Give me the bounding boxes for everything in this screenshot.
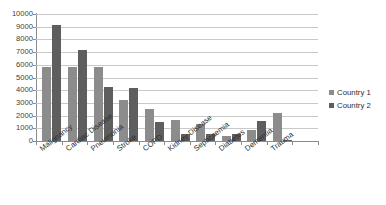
legend-label: Country 1 [337, 88, 371, 97]
x-tick-mark [36, 142, 37, 145]
x-tick-mark [164, 142, 165, 145]
legend-swatch-icon [329, 103, 334, 108]
y-tick-label: 4000 [1, 86, 33, 94]
legend-label: Country 2 [337, 101, 371, 110]
x-tick-mark [215, 142, 216, 145]
bar-chart: 1000090008000700060005000400030002000100… [0, 0, 386, 205]
x-axis-category-labels: MalignancyCardiac DiseasePneumoniaStroke… [0, 146, 386, 205]
plot-area [36, 14, 318, 141]
x-tick-mark [267, 142, 268, 145]
y-axis-tick-labels: 1000090008000700060005000400030002000100… [0, 14, 33, 141]
y-tick-label: 7000 [1, 48, 33, 56]
bar-group [171, 14, 190, 141]
y-tick-label: 5000 [1, 74, 33, 82]
bar-group [119, 14, 138, 141]
x-tick-mark [139, 142, 140, 145]
chart-legend: Country 1Country 2 [329, 86, 386, 112]
bar[interactable] [42, 67, 51, 141]
y-tick-label: 2000 [1, 112, 33, 120]
y-tick-label: 0 [1, 137, 33, 145]
bar-group [273, 14, 292, 141]
legend-item[interactable]: Country 2 [329, 99, 386, 112]
y-tick-label: 9000 [1, 23, 33, 31]
y-tick-label: 1000 [1, 124, 33, 132]
bar-group [68, 14, 87, 141]
x-tick-mark [292, 142, 293, 145]
bar-group [145, 14, 164, 141]
bar[interactable] [52, 25, 61, 141]
x-tick-mark [318, 142, 319, 145]
x-tick-mark [190, 142, 191, 145]
y-tick-label: 10000 [1, 10, 33, 18]
y-tick-label: 3000 [1, 99, 33, 107]
x-tick-mark [241, 142, 242, 145]
x-tick-mark [62, 142, 63, 145]
y-tick-label: 6000 [1, 61, 33, 69]
legend-swatch-icon [329, 90, 334, 95]
x-tick-mark [113, 142, 114, 145]
bar-group [42, 14, 61, 141]
x-tick-mark [87, 142, 88, 145]
y-tick-label: 8000 [1, 36, 33, 44]
bar[interactable] [119, 100, 128, 141]
legend-item[interactable]: Country 1 [329, 86, 386, 99]
bar-group [247, 14, 266, 141]
